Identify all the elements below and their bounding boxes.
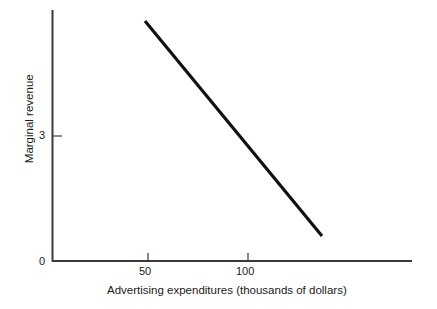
x-tick-label-100: 100 [236,266,254,277]
chart-figure: 3 0 50 100 Advertising expenditures (tho… [0,0,437,309]
marginal-revenue-line [145,21,322,236]
y-tick-label-0: 0 [39,256,45,267]
x-tick-label-50: 50 [139,266,151,277]
x-axis-title: Advertising expenditures (thousands of d… [107,285,347,297]
y-tick-label-3: 3 [39,130,45,141]
y-axis-title: Marginal revenue [24,64,36,174]
plot-area [0,0,437,309]
